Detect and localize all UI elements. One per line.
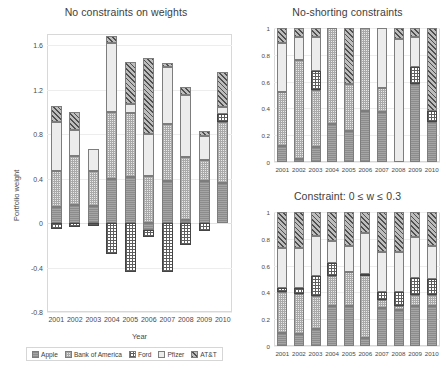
bar-segment-att <box>69 112 80 130</box>
x-axis-tick-label: 2005 <box>122 316 138 323</box>
legend-item-pfizer[interactable]: Pfizer <box>158 351 184 358</box>
bar-segment-boa <box>106 112 117 179</box>
bar-2006[interactable] <box>360 28 370 162</box>
bar-segment-boa <box>199 160 210 181</box>
bar-2006[interactable] <box>143 34 154 312</box>
bar-2009[interactable] <box>410 212 420 346</box>
bar-segment-boa <box>294 60 304 159</box>
legend-item-apple[interactable]: Apple <box>32 351 58 358</box>
bar-2004[interactable] <box>327 212 337 346</box>
bar-2001[interactable] <box>277 28 287 162</box>
x-axis-tick-label: 2004 <box>104 316 120 323</box>
bar-segment-boa <box>311 90 321 148</box>
bar-2003[interactable] <box>88 34 99 312</box>
x-axis-label-unconstrained: Year <box>47 332 232 341</box>
x-axis-tick-label: 2006 <box>358 166 372 173</box>
bar-segment-apple <box>327 124 337 162</box>
bar-segment-boa <box>311 296 321 328</box>
bar-2002[interactable] <box>69 34 80 312</box>
bar-segment-ford <box>199 223 210 231</box>
bar-segment-pfizer <box>377 252 387 292</box>
bar-2005[interactable] <box>344 28 354 162</box>
bar-2003[interactable] <box>311 28 321 162</box>
x-axis-tick-label: 2002 <box>292 350 306 357</box>
x-axis-tick-label: 2010 <box>425 350 439 357</box>
bar-segment-apple <box>360 111 370 162</box>
bar-segment-boa <box>294 294 304 334</box>
bar-2010[interactable] <box>427 212 437 346</box>
bar-segment-ford <box>106 223 117 254</box>
bar-2007[interactable] <box>377 28 387 162</box>
bar-2002[interactable] <box>294 212 304 346</box>
y-axis-tick-label: 0.4 <box>242 105 270 112</box>
bar-segment-pfizer <box>311 236 321 276</box>
x-axis-tick-label: 2006 <box>141 316 157 323</box>
y-axis-tick-label: 0.8 <box>242 235 270 242</box>
bar-segment-apple <box>311 329 321 346</box>
legend-label: AT&T <box>200 351 216 358</box>
legend-item-ford[interactable]: Ford <box>129 351 152 358</box>
bar-2004[interactable] <box>106 34 117 312</box>
bar-segment-apple <box>106 179 117 223</box>
y-axis-tick-label: 0.8 <box>15 131 43 138</box>
legend-item-boa[interactable]: Bank of America <box>65 351 122 358</box>
bar-2007[interactable] <box>162 34 173 312</box>
bar-segment-boa <box>377 300 387 308</box>
y-axis-tick-label: 0.4 <box>242 289 270 296</box>
bar-segment-pfizer <box>294 248 304 288</box>
bar-2005[interactable] <box>125 34 136 312</box>
bar-2002[interactable] <box>294 28 304 162</box>
bar-segment-pfizer <box>51 122 62 171</box>
x-axis-tick-label: 2008 <box>392 166 406 173</box>
bar-segment-att <box>360 212 370 233</box>
bar-2001[interactable] <box>51 34 62 312</box>
x-axis-tick-label: 2010 <box>425 166 439 173</box>
bar-2010[interactable] <box>427 28 437 162</box>
bar-segment-boa <box>51 171 62 208</box>
y-axis-tick-label: 0.6 <box>242 262 270 269</box>
bar-segment-apple <box>377 308 387 346</box>
x-axis-tick-label: 2009 <box>196 316 212 323</box>
bar-segment-pfizer <box>162 67 173 124</box>
bar-2008[interactable] <box>394 28 404 162</box>
bar-2008[interactable] <box>180 34 191 312</box>
bar-segment-pfizer <box>125 104 136 113</box>
bar-segment-att <box>180 87 191 95</box>
bar-segment-ford <box>311 276 321 296</box>
y-axis-tick-label: -0.4 <box>15 264 43 271</box>
bar-2009[interactable] <box>410 28 420 162</box>
x-axis-tick-label: 2005 <box>342 166 356 173</box>
bar-2001[interactable] <box>277 212 287 346</box>
bar-segment-ford <box>180 223 191 245</box>
chart-title-unconstrained: No constraints on weights <box>0 6 252 18</box>
bar-2008[interactable] <box>394 212 404 346</box>
legend-item-att[interactable]: AT&T <box>191 351 216 358</box>
bar-segment-att <box>410 28 420 37</box>
bar-segment-ford <box>294 288 304 293</box>
y-axis-tick-label: 0 <box>242 159 270 166</box>
bar-segment-ford <box>377 292 387 300</box>
bar-2007[interactable] <box>377 212 387 346</box>
bar-segment-pfizer <box>180 95 191 157</box>
bar-segment-att <box>51 106 62 122</box>
bar-segment-boa <box>180 157 191 219</box>
bar-segment-att <box>294 212 304 248</box>
x-axis-tick-label: 2008 <box>392 350 406 357</box>
bar-2005[interactable] <box>344 212 354 346</box>
bar-2004[interactable] <box>327 28 337 162</box>
bar-segment-boa <box>394 306 404 310</box>
bar-segment-apple <box>277 146 287 162</box>
bar-segment-apple <box>377 112 387 162</box>
bar-2006[interactable] <box>360 212 370 346</box>
bar-2003[interactable] <box>311 212 321 346</box>
bar-2009[interactable] <box>199 34 210 312</box>
bar-segment-boa <box>277 292 287 332</box>
x-axis-tick-label: 2010 <box>215 316 231 323</box>
bar-segment-pfizer <box>199 136 210 159</box>
bar-segment-pfizer <box>69 130 80 157</box>
bar-segment-att <box>294 28 304 37</box>
bar-segment-att <box>277 212 287 248</box>
bar-segment-pfizer <box>410 237 420 277</box>
bar-segment-ford <box>217 114 228 122</box>
bar-2010[interactable] <box>217 34 228 312</box>
